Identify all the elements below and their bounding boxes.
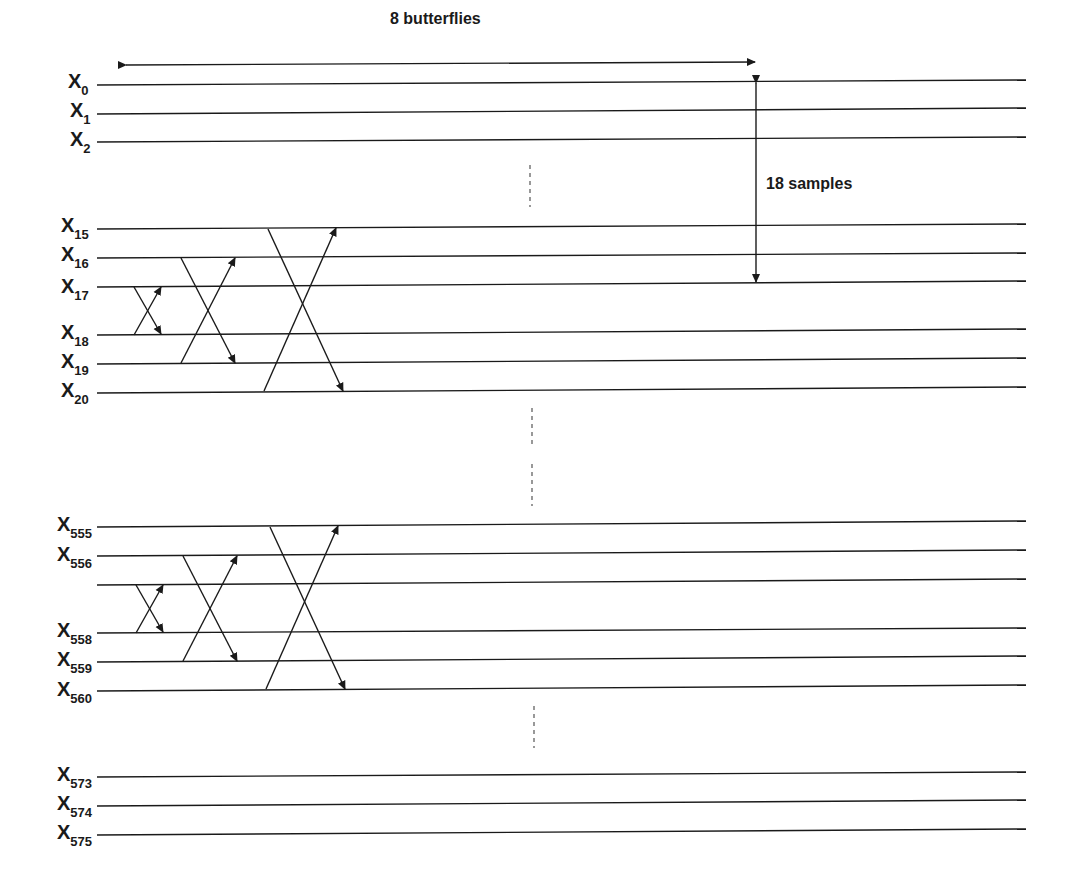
samples-annotation: 18 samples	[766, 175, 852, 193]
sample-line-x15	[97, 224, 1026, 229]
sample-line-x557	[97, 579, 1026, 585]
sample-label: X574	[57, 793, 92, 823]
sample-line-x2	[97, 137, 1026, 142]
sample-label: X575	[57, 822, 92, 852]
sample-label: X15	[61, 215, 89, 245]
sample-label: X556	[57, 544, 92, 574]
sample-label: X18	[61, 322, 89, 352]
sample-label: X555	[57, 514, 92, 544]
sample-line-x573	[97, 772, 1026, 777]
sample-line-x556	[97, 550, 1026, 556]
sample-label: X0	[68, 71, 89, 101]
sample-label: X19	[61, 351, 89, 381]
sample-label: X558	[57, 620, 92, 650]
sample-line-x19	[97, 358, 1026, 364]
sample-label: X20	[61, 380, 89, 410]
sample-label: X560	[57, 679, 92, 709]
sample-line-x18	[97, 329, 1026, 335]
sample-line-x555	[97, 521, 1026, 527]
sample-line-x16	[97, 253, 1026, 258]
sample-label: X1	[70, 100, 91, 130]
sample-label: X573	[57, 764, 92, 794]
sample-line-x574	[97, 800, 1026, 806]
sample-label: X16	[61, 244, 89, 274]
sample-line-x20	[97, 387, 1026, 393]
butterflies-annotation: 8 butterflies	[390, 10, 481, 28]
sample-line-x558	[97, 628, 1026, 633]
sample-label: X17	[61, 276, 89, 306]
sample-line-x17	[97, 281, 1026, 287]
butterflies-span-arrow	[126, 62, 755, 65]
sample-line-x560	[97, 685, 1026, 691]
sample-line-x1	[97, 108, 1026, 114]
sample-line-x0	[97, 80, 1026, 85]
sample-label: X559	[57, 649, 92, 679]
sample-label: X2	[70, 129, 91, 159]
butterfly-diagram	[0, 0, 1080, 895]
sample-line-x575	[97, 829, 1026, 835]
